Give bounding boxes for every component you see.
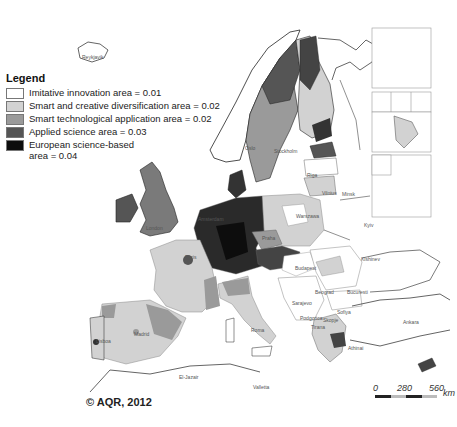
inset-canarias [372,28,431,88]
inset-caribbean [372,92,431,112]
city-label: Skopje [323,317,338,323]
legend-item-smart-technological: Smart technological application area = 0… [6,113,256,126]
city-label: Kishinev [361,256,380,262]
scale-tick-560: 560 [429,383,444,393]
city-label: Podgorica [300,315,323,321]
city-label: Kyiv [364,222,373,228]
city-label: Budapest [295,265,316,271]
region-cyprus [418,358,436,372]
city-label: Stockholm [274,148,297,154]
swatch-mid-gray [6,114,24,125]
city-label: Beograd [315,289,334,295]
swatch-light-gray [6,101,24,112]
city-label: Warszawa [296,213,319,219]
city-label: Riga [307,172,317,178]
city-label: Praha [262,235,275,241]
scale-tick-0: 0 [373,383,378,393]
scale-bar: 0 280 560 km [373,383,453,394]
legend: Legend Imitative innovation area = 0.01 … [6,72,256,165]
city-label: Reykjavik [82,54,103,60]
city-label: Madrid [134,331,149,337]
legend-title: Legend [6,72,256,84]
city-label: Roma [251,327,264,333]
city-label: Athinai [348,345,363,351]
swatch-dark-gray [6,127,24,138]
legend-item-smart-creative: Smart and creative diversification area … [6,100,256,113]
city-label: London [146,225,163,231]
city-label: Vilnius [322,190,337,196]
legend-item-applied-science: Applied science area = 0.03 [6,126,256,139]
city-label: Sarajevo [292,300,312,306]
city-label: Valletta [253,384,269,390]
city-label: Bucuresti [347,289,368,295]
city-label: Amsterdam [198,216,224,222]
region-sicily [252,346,272,356]
swatch-white [6,88,24,99]
europe-map [0,0,457,427]
city-label: Lisboa [96,338,111,344]
region-denmark [228,170,246,198]
swatch-black [6,140,24,151]
region-estonia [310,142,336,158]
region-ireland [116,194,138,222]
city-label: Oslo [245,145,255,151]
city-label: Minsk [342,191,355,197]
city-label: Ankara [403,319,419,325]
scale-unit: km [443,388,455,398]
copyright: © AQR, 2012 [86,396,152,408]
legend-item-european-science: European science-basedarea = 0.04 [6,139,256,165]
city-label: Sofiya [337,309,351,315]
inset-madeira [372,155,391,175]
region-hungary [282,252,316,276]
legend-item-imitative: Imitative innovation area = 0.01 [6,87,256,100]
city-label: El-Jazair [179,374,198,380]
region-sardinia [226,318,234,342]
city-label: Tirana [311,324,325,330]
city-label: Paris [185,254,196,260]
scale-tick-280: 280 [397,383,412,393]
